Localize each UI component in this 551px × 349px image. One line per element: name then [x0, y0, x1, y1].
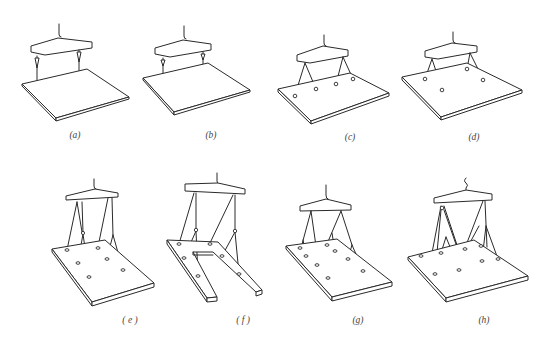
crane-hook-icon [465, 178, 468, 191]
crane-hook-icon [453, 32, 455, 43]
crane-hook-icon [59, 24, 61, 37]
panel-g: (g) [286, 185, 392, 326]
crane-hook-icon [326, 185, 328, 199]
panel-label-h: (h) [478, 315, 489, 326]
spreader-beam [297, 46, 348, 63]
spreader-beam [185, 183, 245, 194]
slab [408, 240, 528, 298]
spreader-beam [300, 199, 351, 211]
lifting-diagram-figure: (a) (b) (c) [0, 0, 551, 349]
slab [143, 63, 250, 112]
panel-f: ( f ) [167, 173, 262, 326]
panel-h: (h) [408, 178, 528, 326]
panel-label-g: (g) [352, 315, 363, 326]
panel-label-b: (b) [205, 130, 216, 141]
panel-label-c: (c) [345, 132, 356, 143]
panel-label-e: ( e ) [122, 315, 137, 326]
panel-b: (b) [143, 26, 250, 141]
slab [22, 69, 129, 118]
panel-c: (c) [278, 35, 389, 143]
u-shaped-slab [167, 240, 262, 298]
crane-hook-icon [184, 26, 186, 39]
crane-hook-icon [217, 173, 219, 184]
panel-label-d: (d) [468, 132, 479, 143]
spreader-beam [31, 38, 92, 55]
crane-hook-icon [324, 35, 326, 46]
slab [402, 63, 522, 117]
spreader-beam [66, 189, 118, 200]
panel-e: ( e ) [52, 179, 154, 326]
panel-a: (a) [22, 24, 129, 141]
panel-d: (d) [402, 32, 522, 143]
panel-label-a: (a) [69, 130, 80, 141]
crane-hook-icon [94, 179, 96, 189]
panel-label-f: ( f ) [236, 315, 250, 326]
